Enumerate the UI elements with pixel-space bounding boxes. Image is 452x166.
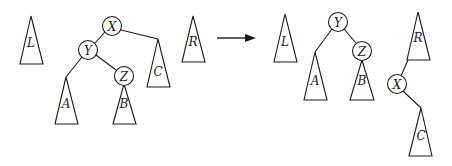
subtree-a-label: A bbox=[310, 74, 320, 88]
subtree-c: C bbox=[147, 39, 170, 87]
edge-y-a bbox=[315, 29, 332, 52]
subtree-r-label: R bbox=[412, 31, 422, 45]
subtree-b-label: B bbox=[357, 74, 367, 88]
subtree-l-label: L bbox=[280, 35, 289, 49]
subtree-a-label: A bbox=[61, 97, 71, 111]
edge-y-z bbox=[96, 55, 116, 70]
subtree-r: R bbox=[407, 12, 430, 60]
edge-x-c bbox=[121, 30, 158, 39]
node-z: Z bbox=[353, 42, 372, 61]
subtree-l-label: L bbox=[26, 36, 35, 50]
node-z-label: Z bbox=[357, 45, 367, 59]
subtree-c-label: C bbox=[416, 129, 425, 143]
subtree-b: B bbox=[350, 60, 374, 100]
node-y-label: Y bbox=[84, 44, 93, 58]
node-z-label: Z bbox=[119, 70, 129, 84]
transform-arrow-icon bbox=[217, 34, 256, 42]
node-y: Y bbox=[329, 13, 348, 32]
node-y-label: Y bbox=[334, 16, 343, 30]
subtree-l: L bbox=[274, 14, 297, 62]
edge-y-a bbox=[66, 57, 82, 77]
node-x-label: X bbox=[392, 78, 402, 92]
edge-r-x bbox=[401, 60, 408, 76]
node-x-label: X bbox=[107, 20, 117, 34]
node-x: X bbox=[388, 75, 407, 94]
node-x: X bbox=[103, 17, 122, 36]
tree-transformation-diagram: L A B C R X Y bbox=[0, 0, 452, 166]
edge-y-z bbox=[344, 29, 356, 43]
edge-x-y bbox=[95, 32, 105, 43]
node-z: Z bbox=[115, 67, 134, 86]
before-tree: L A B C R X Y bbox=[20, 16, 205, 124]
subtree-l: L bbox=[20, 16, 43, 64]
subtree-b-label: B bbox=[119, 97, 129, 111]
subtree-a: A bbox=[304, 52, 327, 100]
subtree-r-label: R bbox=[187, 35, 197, 49]
subtree-r: R bbox=[182, 16, 205, 62]
subtree-b: B bbox=[113, 84, 136, 124]
subtree-a: A bbox=[55, 77, 78, 124]
node-y: Y bbox=[79, 41, 98, 60]
subtree-c: C bbox=[409, 108, 432, 156]
edge-x-c bbox=[403, 91, 421, 108]
after-tree: L A B R C Y Z bbox=[274, 12, 432, 156]
subtree-c-label: C bbox=[153, 65, 162, 79]
